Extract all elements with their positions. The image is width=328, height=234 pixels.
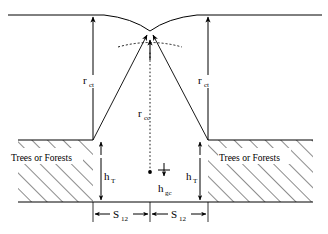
dimension-h-gc-group [158,163,170,176]
ray-right-to-apex [153,35,208,140]
label-h-T-left-sub: T [111,177,116,185]
label-region-right: Trees or Forests [219,153,280,163]
label-h-T-right-sub: T [193,177,198,185]
label-r-ct-right: r ct [198,74,209,89]
arc-right-upper [150,15,197,31]
label-r-cc-sub: cc [144,114,150,122]
dimension-s12-group [93,202,208,222]
label-s12-right-sub: 12 [179,215,187,223]
forest-block-right [208,140,313,202]
label-h-T-right-base: h [186,170,192,182]
label-r-ct-left-sub: ct [89,81,94,89]
label-s12-left: S 12 [113,208,129,223]
label-s12-right: S 12 [171,208,187,223]
label-h-T-left-base: h [104,170,110,182]
arc-left-upper [104,15,150,31]
scatter-geometry-figure: r ct r ct r cc h T h T h gc S [0,0,328,234]
scatter-arcs-group [104,15,197,31]
label-s12-left-sub: 12 [121,215,129,223]
center-vertical-group [148,40,152,174]
label-r-ct-left-base: r [83,74,87,86]
label-region-left: Trees or Forests [11,153,72,163]
ray-left-to-apex [93,35,147,140]
label-h-gc: h gc [158,182,172,197]
label-h-gc-sub: gc [165,189,172,197]
diagram-canvas: r ct r ct r cc h T h T h gc S [0,0,328,234]
label-h-gc-base: h [158,182,164,194]
label-r-cc-base: r [138,107,142,119]
label-h-T-right: h T [186,170,198,185]
label-r-ct-right-base: r [198,74,202,86]
label-s12-right-base: S [171,208,177,220]
label-s12-left-base: S [113,208,119,220]
label-h-T-left: h T [104,170,116,185]
forest-block-left [10,140,93,202]
label-r-ct-right-sub: ct [204,81,209,89]
label-r-cc-center: r cc [138,107,150,122]
label-r-ct-left: r ct [83,74,94,89]
ground-center-point [148,170,152,174]
